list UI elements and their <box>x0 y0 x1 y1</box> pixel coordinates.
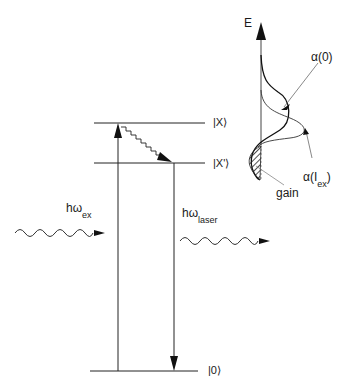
level-zero-label: |0⟩ <box>208 364 221 377</box>
laser-photon-wave <box>180 238 258 245</box>
excitation-photon-wave <box>15 230 93 237</box>
gain-label: gain <box>276 186 299 200</box>
energy-level-diagram <box>0 0 352 392</box>
excitation-photon-label: hωex <box>66 201 92 215</box>
excitation-arrowhead <box>114 123 122 138</box>
relaxation-arrowhead <box>157 152 172 162</box>
energy-axis-arrowhead <box>256 22 266 40</box>
alpha0-pointer <box>284 63 318 107</box>
energy-axis-label: E <box>244 16 252 30</box>
gain-region <box>249 146 261 180</box>
laser-photon-arrowhead <box>259 238 270 244</box>
level-X-label: |X⟩ <box>213 116 227 129</box>
relaxation-zigzag <box>121 127 160 155</box>
alpha0-label: α(0) <box>311 50 333 64</box>
laser-photon-label: hωlaser <box>182 206 218 220</box>
alphaIex-pointer <box>306 131 312 158</box>
alphaIex-label: α(Iex) <box>303 170 331 184</box>
laser-arrowhead <box>170 356 178 371</box>
level-Xprime-label: |X'⟩ <box>213 157 229 170</box>
alphaIex-curve <box>258 90 304 147</box>
excitation-photon-arrowhead <box>94 230 105 236</box>
